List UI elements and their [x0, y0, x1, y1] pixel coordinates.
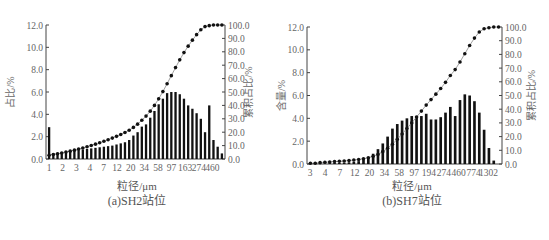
bar — [153, 111, 155, 159]
bar — [401, 121, 404, 164]
bar — [183, 99, 185, 159]
y2-tick-label: 90.0 — [505, 36, 522, 46]
cumulative-point — [381, 150, 385, 154]
cumulative-point — [410, 121, 414, 125]
x-tick-label: 3 — [74, 163, 79, 173]
y2-tick-label: 70.0 — [505, 64, 522, 74]
bar — [86, 149, 88, 159]
cumulative-point — [52, 153, 56, 157]
cumulative-point — [111, 136, 115, 140]
y2-tick-label: 20.0 — [505, 132, 522, 142]
cumulative-point — [161, 90, 165, 94]
cumulative-point — [68, 149, 72, 153]
x-tick-label: 274 — [192, 163, 207, 173]
cumulative-point — [56, 152, 60, 156]
bar — [483, 130, 486, 164]
bar — [174, 92, 176, 159]
bar — [166, 93, 168, 159]
bar — [449, 107, 452, 164]
cumulative-point — [444, 81, 448, 85]
bar — [386, 137, 389, 164]
bar — [488, 148, 491, 164]
bar — [439, 117, 442, 164]
x-tick-label: 97 — [167, 163, 177, 173]
bar — [435, 119, 438, 164]
bar — [132, 136, 134, 159]
bar — [444, 113, 447, 164]
y2-tick-label: 10.0 — [228, 141, 245, 151]
y-tick-label: 4.0 — [292, 114, 304, 124]
cumulative-point — [77, 147, 81, 151]
y-tick-label: 8.0 — [31, 65, 43, 75]
cumulative-point — [119, 133, 123, 137]
cumulative-point — [458, 60, 462, 64]
cumulative-point — [386, 146, 390, 150]
chart-title: (b)SH7站位 — [275, 191, 549, 209]
y-tick-label: 0.0 — [31, 155, 43, 165]
x-tick-label: 163 — [178, 163, 193, 173]
cumulative-point — [207, 24, 211, 28]
bar — [377, 149, 380, 164]
bar — [90, 148, 92, 159]
y-axis-label: 占比/% — [4, 76, 16, 107]
x-tick-label: 1 — [47, 163, 52, 173]
cumulative-point — [81, 146, 85, 150]
cumulative-point — [174, 66, 178, 70]
y-tick-label: 2.0 — [292, 137, 304, 147]
cumulative-point — [60, 151, 64, 155]
bar — [492, 161, 495, 164]
cumulative-point — [333, 160, 337, 164]
y-tick-label: 10.0 — [287, 45, 304, 55]
bar — [343, 163, 346, 164]
bar — [204, 132, 206, 159]
x-tick-label: 12 — [112, 163, 122, 173]
cumulative-point — [216, 23, 220, 27]
cumulative-point — [106, 138, 110, 142]
cumulative-point — [148, 109, 152, 113]
cumulative-point — [429, 98, 433, 102]
cumulative-point — [347, 159, 351, 163]
cumulative-point — [191, 38, 195, 42]
bar — [212, 140, 214, 159]
bar — [473, 101, 476, 164]
bar — [136, 132, 138, 159]
bar — [158, 104, 160, 159]
cumulative-point — [47, 153, 51, 157]
cumulative-point — [309, 162, 313, 166]
cumulative-point — [170, 74, 174, 78]
y-tick-label: 0.0 — [292, 160, 304, 170]
cumulative-point — [203, 25, 207, 29]
cumulative-point — [376, 153, 380, 157]
cumulative-point — [487, 26, 491, 30]
bar — [187, 105, 189, 159]
y-tick-label: 8.0 — [292, 68, 304, 78]
bar — [391, 129, 394, 164]
y-tick-label: 10.0 — [26, 43, 43, 53]
cumulative-point — [144, 114, 148, 118]
cumulative-point — [352, 158, 356, 162]
bar — [396, 124, 399, 164]
bar — [115, 144, 117, 159]
y2-tick-label: 100.0 — [505, 23, 527, 33]
bar — [406, 118, 409, 164]
cumulative-point — [136, 122, 140, 126]
bar — [430, 119, 433, 164]
cumulative-point — [391, 142, 395, 146]
cumulative-point — [186, 44, 190, 48]
cumulative-point — [497, 25, 501, 29]
y2-tick-label: 30.0 — [505, 118, 522, 128]
y-tick-label: 4.0 — [31, 110, 43, 120]
cumulative-point — [313, 161, 317, 165]
cumulative-point — [64, 150, 68, 154]
bar — [208, 105, 210, 159]
bar — [454, 116, 457, 164]
cumulative-point — [424, 103, 428, 107]
bar — [99, 147, 101, 159]
y2-tick-label: 0.0 — [505, 160, 517, 170]
cumulative-point — [453, 68, 457, 72]
y2-axis-label: 累积占比/% — [525, 70, 537, 121]
bar — [463, 94, 466, 164]
cumulative-point — [477, 30, 481, 34]
bar — [107, 146, 109, 159]
bar — [149, 118, 151, 159]
